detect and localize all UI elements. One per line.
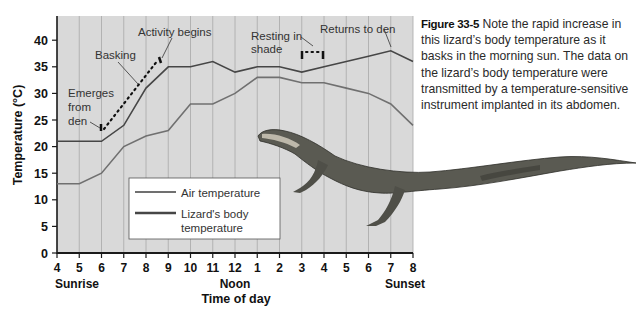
x-tick-label: 4 <box>321 261 328 275</box>
x-sublabel: Sunrise <box>55 277 99 291</box>
caption-text: Note the rapid increase in this lizard’s… <box>421 17 628 112</box>
y-tick-label: 0 <box>41 247 48 261</box>
x-tick-label: 1 <box>254 261 261 275</box>
y-tick-label: 25 <box>34 114 48 128</box>
x-tick-label: 5 <box>343 261 350 275</box>
figure-label: Figure 33-5 <box>421 18 479 30</box>
y-axis-title: Temperature (°C) <box>11 85 25 186</box>
x-tick-label: 3 <box>298 261 305 275</box>
x-tick-label: 10 <box>184 261 198 275</box>
x-axis-title: Time of day <box>201 292 270 306</box>
annotation-basking: Basking <box>95 49 136 61</box>
x-tick-label: 7 <box>387 261 394 275</box>
x-tick-label: 8 <box>143 261 150 275</box>
x-axis: 45678910111212345678SunriseNoonSunset <box>54 253 425 291</box>
y-tick-label: 30 <box>34 87 48 101</box>
x-tick-label: 12 <box>228 261 242 275</box>
y-axis: 0510152025303540 <box>34 16 57 261</box>
annotation-returns-to-den: Returns to den <box>320 23 395 35</box>
x-tick-label: 4 <box>54 261 61 275</box>
x-tick-label: 11 <box>206 261 219 275</box>
legend-air-label: Air temperature <box>181 187 260 199</box>
x-sublabel: Noon <box>220 277 251 291</box>
x-tick-label: 5 <box>76 261 83 275</box>
y-tick-label: 40 <box>34 34 48 48</box>
annotation-activity-begins: Activity begins <box>138 26 212 38</box>
x-tick-label: 7 <box>120 261 127 275</box>
x-tick-label: 9 <box>165 261 172 275</box>
x-sublabel: Sunset <box>385 277 425 291</box>
legend: Air temperature Lizard's body temperatur… <box>129 178 280 239</box>
y-tick-label: 15 <box>34 167 48 181</box>
figure-caption: Figure 33-5 Note the rapid increase in t… <box>421 16 636 113</box>
x-tick-label: 6 <box>365 261 372 275</box>
y-tick-label: 10 <box>34 193 48 207</box>
x-tick-label: 2 <box>276 261 283 275</box>
y-tick-label: 35 <box>34 60 48 74</box>
y-tick-label: 5 <box>41 220 48 234</box>
x-tick-label: 6 <box>98 261 105 275</box>
x-tick-label: 8 <box>410 261 417 275</box>
y-tick-label: 20 <box>34 140 48 154</box>
